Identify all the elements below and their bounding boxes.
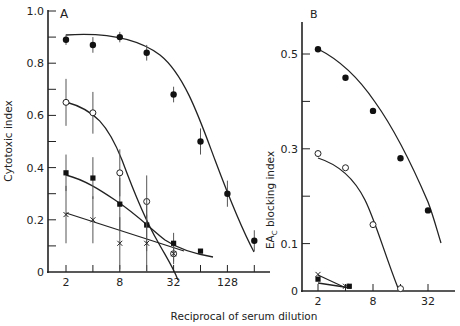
point-filled-square xyxy=(315,277,320,282)
y-tick-label: 0.8 xyxy=(27,57,45,70)
panel-a-y-ticks: 00.20.40.60.81.0 xyxy=(27,5,57,279)
point-filled-circle xyxy=(251,237,257,243)
panel-a-label: A xyxy=(60,7,69,21)
point-filled-circle xyxy=(170,91,176,97)
point-filled-circle xyxy=(342,75,348,81)
curve-open-circles xyxy=(66,102,178,280)
x-tick-label: 2 xyxy=(63,276,70,289)
panel-a-y-axis-label: Cytotoxic index xyxy=(2,100,14,181)
x-tick-label: 32 xyxy=(421,295,435,308)
curve-filled-circles-b xyxy=(318,49,441,243)
y-tick-label: 0.5 xyxy=(281,48,299,61)
curve-filled-circles xyxy=(66,34,254,252)
panel-a-axes xyxy=(47,10,270,273)
y-tick-label: 1.0 xyxy=(27,5,45,18)
point-filled-square xyxy=(90,175,95,180)
x-axis-label: Reciprocal of serum dilution xyxy=(171,310,318,322)
point-open-circle xyxy=(370,222,376,228)
point-open-circle xyxy=(343,165,349,171)
y-tick-label: 0.4 xyxy=(27,162,45,175)
point-filled-circle xyxy=(397,155,403,161)
point-cross xyxy=(316,272,321,277)
curve-open-circles-b xyxy=(318,158,398,288)
point-filled-circle xyxy=(425,207,431,213)
point-filled-circle xyxy=(315,46,321,52)
point-filled-circle xyxy=(370,108,376,114)
y-tick-label: 0 xyxy=(291,285,298,298)
curve-filled-squares xyxy=(66,175,213,257)
point-filled-circle xyxy=(117,34,123,40)
panel-a-x-ticks: 2832128 xyxy=(63,265,255,289)
point-filled-square xyxy=(171,241,176,246)
x-tick-label: 32 xyxy=(167,276,181,289)
panel-b-x-ticks: 2832 xyxy=(315,284,436,308)
curve-crosses xyxy=(66,213,184,251)
point-filled-square xyxy=(63,170,68,175)
point-open-circle xyxy=(90,110,96,116)
panel-b-curves xyxy=(318,49,441,288)
point-filled-circle xyxy=(90,42,96,48)
panel-a-curves xyxy=(66,34,254,280)
figure: 00.20.40.60.81.0 2832128 A Cytotoxic ind… xyxy=(0,0,460,326)
point-open-circle xyxy=(398,286,404,292)
point-filled-circle xyxy=(63,37,69,43)
panel-b-y-ticks: 00.10.30.5 xyxy=(281,48,311,298)
y-tick-label: 0.2 xyxy=(27,214,45,227)
point-filled-circle xyxy=(224,191,230,197)
panel-b-y-axis-label: EAC blocking index xyxy=(264,151,279,249)
point-filled-circle xyxy=(197,138,203,144)
x-tick-label: 2 xyxy=(315,295,322,308)
y-tick-label: 0 xyxy=(37,266,44,279)
point-filled-square xyxy=(117,202,122,207)
point-open-circle xyxy=(315,151,321,157)
point-filled-square xyxy=(198,249,203,254)
point-filled-circle xyxy=(144,50,150,56)
y-tick-label: 0.3 xyxy=(281,143,299,156)
y-tick-label: 0.1 xyxy=(281,238,299,251)
x-tick-label: 8 xyxy=(370,295,377,308)
point-open-circle xyxy=(63,99,69,105)
panel-b-label: B xyxy=(310,8,318,21)
x-tick-label: 128 xyxy=(217,276,238,289)
point-open-circle xyxy=(117,170,123,176)
y-tick-label: 0.6 xyxy=(27,109,45,122)
x-tick-label: 8 xyxy=(116,276,123,289)
panel-b-axes xyxy=(301,22,455,292)
